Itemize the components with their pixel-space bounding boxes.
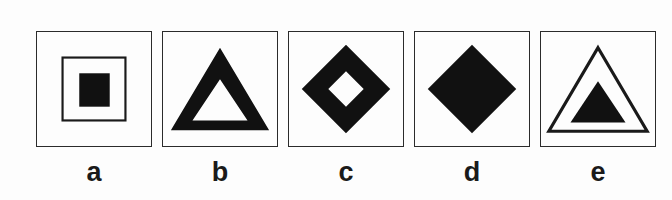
panel-label-row: a b c d e [36, 152, 656, 192]
inner-filled-triangle [570, 81, 625, 122]
figure-root: a b c d e [0, 0, 672, 200]
panel-a [36, 31, 152, 147]
panel-row [36, 31, 656, 148]
shape-triangle-outline-with-inner-filled-triangle [541, 32, 655, 146]
panel-d [414, 31, 530, 147]
panel-label-c: c [288, 157, 404, 187]
panel-b [162, 31, 278, 147]
filled-diamond [428, 45, 516, 133]
triangle-ring [171, 48, 269, 131]
filled-square [79, 73, 109, 106]
diamond-ring [302, 45, 390, 133]
panel-e [540, 31, 656, 147]
panel-label-a: a [36, 157, 152, 187]
panel-label-d: d [414, 157, 530, 187]
panel-label-b: b [162, 157, 278, 187]
shape-filled-diamond [415, 32, 529, 146]
panel-c [288, 31, 404, 147]
panel-label-e: e [540, 157, 656, 187]
shape-nested-squares [37, 32, 151, 146]
shape-thick-triangle-outline [163, 32, 277, 146]
shape-thick-diamond-outline [289, 32, 403, 146]
